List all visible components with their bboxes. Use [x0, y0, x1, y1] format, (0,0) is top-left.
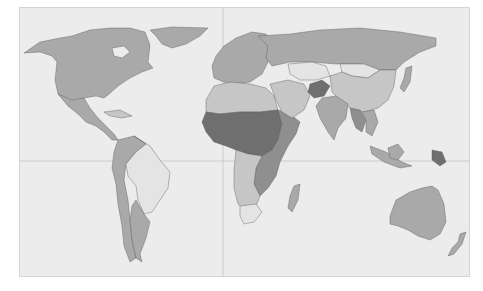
region-north-africa[interactable] [206, 82, 278, 114]
region-greenland[interactable] [150, 27, 208, 48]
world-map[interactable] [0, 0, 483, 291]
region-mexico-central-america[interactable] [58, 94, 118, 140]
region-japan[interactable] [400, 66, 412, 92]
region-sahel-central-africa[interactable] [202, 110, 282, 156]
region-north-america[interactable] [24, 28, 153, 102]
region-russia[interactable] [258, 28, 436, 70]
region-australia[interactable] [390, 186, 446, 240]
region-madagascar[interactable] [288, 184, 300, 212]
region-kazakhstan[interactable] [288, 62, 330, 80]
region-borneo[interactable] [388, 144, 404, 160]
region-india[interactable] [316, 96, 348, 140]
region-south-africa[interactable] [240, 204, 262, 224]
region-new-zealand[interactable] [448, 232, 466, 256]
region-papua-new-guinea[interactable] [432, 150, 446, 166]
region-caribbean[interactable] [104, 110, 132, 118]
region-afghanistan[interactable] [308, 80, 330, 98]
